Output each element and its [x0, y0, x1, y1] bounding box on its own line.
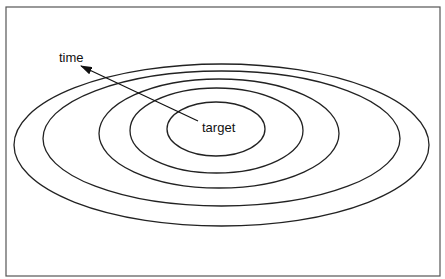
time-arrow — [81, 66, 198, 121]
diagram-canvas: time target — [0, 0, 445, 279]
ellipse-group — [14, 64, 429, 226]
time-label: time — [59, 50, 84, 65]
target-label: target — [202, 120, 236, 135]
concentric-ellipses-diagram: time target — [0, 0, 445, 279]
contour-ellipse-2 — [43, 71, 400, 206]
diagram-frame — [6, 7, 440, 276]
